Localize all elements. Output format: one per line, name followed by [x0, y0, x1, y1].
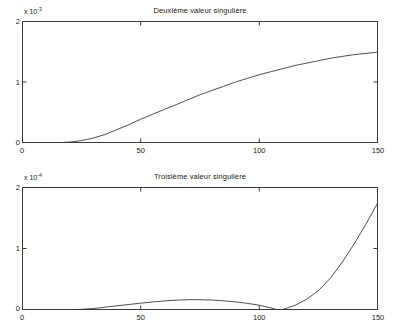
y-exponent-prefix-top: x 10 [24, 8, 37, 15]
y-tick-label-top-1: 1 [6, 78, 20, 87]
data-line-top [22, 21, 378, 143]
tickmarks-bottom [23, 188, 378, 310]
x-tick-label-bottom-150: 150 [366, 313, 390, 322]
y-tick-label-bottom-0: 0 [6, 304, 20, 313]
figure-canvas: Deuxième valeur singulière x 10-3 2 1 0 … [0, 0, 395, 332]
tickmarks-top [23, 22, 378, 143]
x-tick-label-bottom-100: 100 [247, 313, 271, 322]
x-tick-label-top-0: 0 [10, 146, 34, 155]
axes-panel-top: Deuxième valeur singulière x 10-3 2 1 0 … [0, 0, 395, 166]
x-tick-label-top-50: 50 [129, 146, 153, 155]
y-exponent-value-top: -3 [37, 6, 42, 12]
data-line-bottom [22, 187, 378, 310]
x-tick-label-bottom-0: 0 [10, 313, 34, 322]
x-tick-label-top-150: 150 [366, 146, 390, 155]
chart-title-top: Deuxième valeur singulière [22, 6, 378, 15]
y-tick-label-top-2: 2 [6, 17, 20, 26]
axes-panel-bottom: Troisième valeur singulière x 10-4 2 1 0… [0, 166, 395, 332]
curve-path-top [22, 52, 378, 143]
y-exponent-label-bottom: x 10-4 [24, 174, 42, 182]
x-tick-label-top-100: 100 [247, 146, 271, 155]
y-exponent-prefix-bottom: x 10 [24, 174, 37, 181]
x-tick-label-bottom-50: 50 [129, 313, 153, 322]
chart-title-bottom: Troisième valeur singulière [22, 172, 378, 181]
y-tick-label-bottom-1: 1 [6, 244, 20, 253]
y-tick-label-bottom-2: 2 [6, 183, 20, 192]
curve-path-bottom [22, 202, 378, 310]
y-exponent-value-bottom: -4 [37, 172, 42, 178]
y-exponent-label-top: x 10-3 [24, 8, 42, 16]
